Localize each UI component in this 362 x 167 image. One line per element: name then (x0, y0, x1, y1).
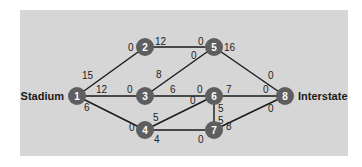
svg-text:1: 1 (74, 91, 80, 102)
svg-text:8: 8 (282, 91, 288, 102)
node-8: 8 (276, 87, 294, 105)
source-label: Stadium (21, 90, 65, 102)
cap-2-5-to: 0 (198, 36, 204, 47)
cap-3-5-from: 8 (156, 69, 162, 80)
cap-1-4-from: 6 (84, 102, 90, 113)
cap-4-6-from: 5 (153, 112, 159, 123)
cap-4-7-from: 4 (154, 134, 160, 145)
cap-3-6-to: 0 (197, 84, 203, 95)
capacity-labels: 15 0 12 0 6 0 12 0 8 0 6 0 5 0 4 0 16 0 … (82, 36, 274, 145)
svg-text:3: 3 (142, 91, 148, 102)
cap-4-7-to: 0 (198, 134, 204, 145)
cap-2-5-from: 12 (155, 36, 167, 47)
node-4: 4 (136, 121, 154, 139)
cap-3-6-from: 6 (170, 84, 176, 95)
node-6: 6 (205, 87, 223, 105)
sink-label: Interstate (298, 90, 348, 102)
cap-5-8-from: 16 (224, 42, 236, 53)
node-1: 1 (68, 87, 86, 105)
svg-text:2: 2 (142, 42, 148, 53)
node-3: 3 (136, 87, 154, 105)
cap-1-2-to: 0 (128, 42, 134, 53)
node-7: 7 (205, 121, 223, 139)
node-2: 2 (136, 38, 154, 56)
cap-7-8-to: 0 (268, 103, 274, 114)
cap-1-2-from: 15 (82, 70, 94, 81)
cap-1-4-to: 0 (129, 122, 135, 133)
cap-7-8-from: 8 (226, 121, 232, 132)
cap-5-8-to: 0 (268, 70, 274, 81)
svg-text:7: 7 (211, 125, 217, 136)
edge-7-8 (214, 96, 285, 130)
svg-text:5: 5 (211, 42, 217, 53)
cap-4-6-to: 0 (190, 95, 196, 106)
network-diagram: 15 0 12 0 6 0 12 0 8 0 6 0 5 0 4 0 16 0 … (0, 0, 362, 167)
svg-text:4: 4 (142, 125, 148, 136)
cap-1-3-to: 0 (127, 84, 133, 95)
svg-text:6: 6 (211, 91, 217, 102)
cap-6-8-to: 0 (263, 84, 269, 95)
edge-5-8 (214, 47, 285, 96)
cap-1-3-from: 12 (96, 84, 108, 95)
cap-6-7-from: 5 (218, 103, 224, 114)
cap-6-8-from: 7 (226, 84, 232, 95)
cap-3-5-to: 0 (191, 50, 197, 61)
node-5: 5 (205, 38, 223, 56)
edges (77, 47, 285, 130)
